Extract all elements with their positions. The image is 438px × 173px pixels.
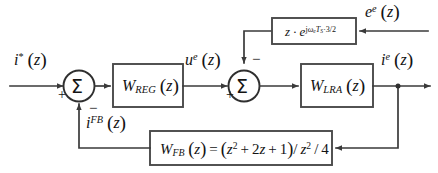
block-diagram: Σ Σ + − + − i* (z) ue (z) ie (z) iFB (z)…: [0, 0, 438, 173]
summing-junction-1-glyph: Σ: [71, 77, 83, 96]
summer-1-plus-sign: +: [58, 88, 66, 102]
block-feedback-label: WFB (z) = (z2 + 2z + 1)/ z2 / 4: [160, 140, 329, 158]
block-delay-label: z · ejωeTS·3/2: [285, 25, 336, 38]
label-feedback-signal: iFB (z): [86, 113, 126, 133]
label-reference-input: i* (z): [14, 50, 47, 70]
label-disturbance-input: ee (z): [365, 2, 400, 22]
label-plant-output: ie (z): [381, 50, 413, 70]
block-regulator-label: WREG (z): [122, 76, 179, 96]
junction-dot-output: [396, 84, 401, 89]
label-regulator-output: ue (z): [185, 50, 221, 70]
summer-2-plus-sign: +: [226, 88, 234, 102]
block-plant-label: WLRA (z): [310, 76, 365, 96]
summer-2-minus-sign: −: [252, 52, 260, 67]
summing-junction-2-glyph: Σ: [236, 77, 248, 96]
